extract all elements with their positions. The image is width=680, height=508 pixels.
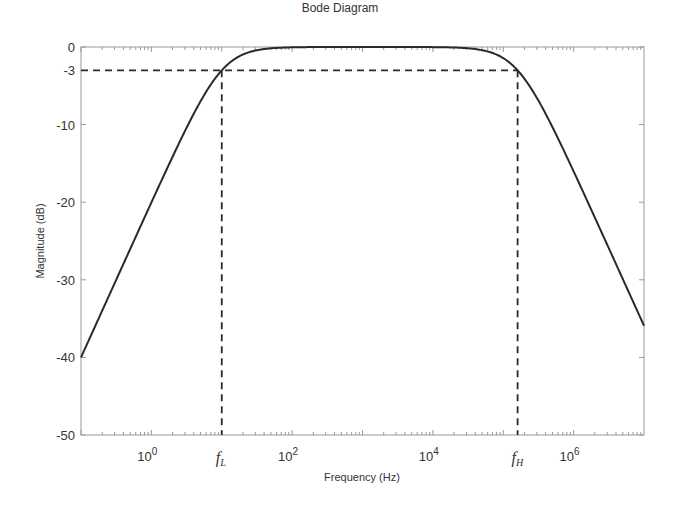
minor-ticks (81, 47, 641, 435)
x-tick-label: 100 (137, 446, 157, 464)
y-tick-label: -3 (63, 63, 75, 78)
x-tick-label: 102 (278, 446, 298, 464)
y-tick-label: -50 (56, 428, 75, 443)
y-tick-label: -10 (56, 118, 75, 133)
x-tick-label: 106 (560, 446, 580, 464)
magnitude-curve (81, 47, 644, 357)
x-tick-label: 104 (419, 446, 439, 464)
y-tick-label: -20 (56, 195, 75, 210)
cutoff-annotations: fLfH (81, 70, 524, 468)
y-axis-label: Magnitude (dB) (34, 203, 46, 278)
plot-area-frame (81, 47, 644, 435)
x-axis-label: Frequency (Hz) (324, 471, 400, 483)
chart-title: Bode Diagram (302, 1, 379, 15)
y-tick-label: -40 (56, 350, 75, 365)
bode-chart: Bode Diagram 0-3-10-20-30-40-50 10010210… (0, 0, 680, 508)
cutoff-label: fH (512, 449, 524, 468)
y-tick-label: -30 (56, 273, 75, 288)
y-tick-label: 0 (68, 40, 75, 55)
cutoff-label: fL (216, 449, 226, 468)
y-axis-ticks: 0-3-10-20-30-40-50 (56, 40, 644, 443)
